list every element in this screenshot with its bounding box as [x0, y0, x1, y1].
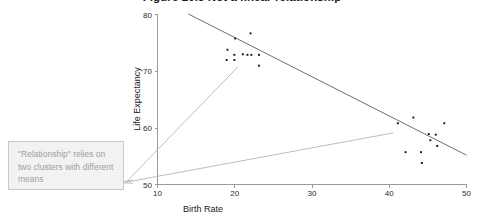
x-tick-label: 50 [462, 189, 471, 198]
data-point [250, 32, 252, 34]
data-point [227, 49, 229, 51]
y-axis-title: Life Expectancy [132, 67, 142, 131]
data-point [397, 122, 399, 124]
data-point [258, 65, 260, 67]
figure-container: Figure 20.5 Not a linear relationship 80… [0, 0, 484, 217]
data-point [242, 53, 244, 55]
data-point [429, 139, 431, 141]
cluster-callout-box: "Relationship" relies on two clusters wi… [8, 141, 124, 190]
y-tick-label: 70 [143, 67, 152, 76]
data-point [226, 59, 228, 61]
x-tick-label: 10 [153, 189, 162, 198]
y-tick-label: 80 [143, 11, 152, 20]
overall-regression-line [188, 14, 466, 155]
data-point [233, 59, 235, 61]
data-point [258, 54, 260, 56]
cluster-callout-text: "Relationship" relies on two clusters wi… [18, 148, 120, 186]
data-point [420, 151, 422, 153]
data-point [421, 162, 423, 164]
data-point [233, 54, 235, 56]
callout-pointer-lower [124, 183, 133, 184]
data-point [412, 117, 414, 119]
x-tick-label: 40 [385, 189, 394, 198]
x-tick-label: 30 [308, 189, 317, 198]
data-point [435, 134, 437, 136]
x-axis-title: Birth Rate [183, 204, 223, 214]
data-point [234, 38, 236, 40]
data-point [250, 54, 252, 56]
y-tick-label: 50 [143, 181, 152, 190]
data-points [226, 32, 445, 164]
data-point [247, 54, 249, 56]
data-point [405, 151, 407, 153]
x-axis-ticks: 10 20 30 40 50 [153, 185, 471, 199]
fit-lines [126, 14, 467, 182]
data-point [428, 133, 430, 135]
x-tick-label: 20 [230, 189, 239, 198]
data-point [443, 122, 445, 124]
y-tick-label: 60 [143, 124, 152, 133]
data-point [436, 145, 438, 147]
